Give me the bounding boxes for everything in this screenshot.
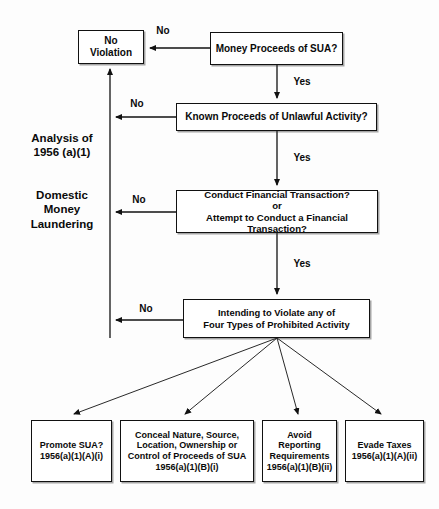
node-known-proceeds-of-unlawful-activity[interactable]: Known Proceeds of Unlawful Activity? <box>176 103 377 131</box>
edge-label-yes-2: Yes <box>286 152 318 164</box>
node-intending-to-violate[interactable]: Intending to Violate any of Four Types o… <box>183 299 370 338</box>
node-outcome-evade-taxes-label: Evade Taxes 1956(a)(1)(A)(ii) <box>349 440 421 461</box>
edge-fan-conceal <box>185 338 277 414</box>
edge-label-no-1: No <box>148 25 178 37</box>
node-conduct-financial-transaction[interactable]: Conduct Financial Transaction? or Attemp… <box>176 190 378 233</box>
edge-label-no-2: No <box>122 98 152 110</box>
node-conduct-txn-label: Conduct Financial Transaction? or Attemp… <box>177 189 377 234</box>
edge-label-no-4: No <box>131 303 161 315</box>
node-money-proceeds-label: Money Proceeds of SUA? <box>213 43 341 55</box>
node-outcome-conceal-nature[interactable]: Conceal Nature, Source, Location, Owners… <box>120 420 254 482</box>
edge-label-no-3: No <box>124 194 154 206</box>
node-outcome-promote-sua[interactable]: Promote SUA? 1956(a)(1)(A)(i) <box>31 420 112 482</box>
node-outcome-conceal-nature-label: Conceal Nature, Source, Location, Owners… <box>125 430 250 472</box>
edge-label-yes-3: Yes <box>286 258 318 270</box>
node-known-proceeds-label: Known Proceeds of Unlawful Activity? <box>182 111 370 123</box>
edge-fan-promote <box>74 338 277 414</box>
side-label-domestic: Domestic Money Laundering <box>14 188 110 231</box>
node-no-violation[interactable]: No Violation <box>78 30 144 64</box>
node-outcome-promote-sua-label: Promote SUA? 1956(a)(1)(A)(i) <box>37 440 107 461</box>
node-intending-label: Intending to Violate any of Four Types o… <box>200 307 352 329</box>
node-outcome-avoid-reporting[interactable]: Avoid Reporting Requirements 1956(a)(1)(… <box>262 420 337 482</box>
flowchart-canvas: Analysis of 1956 (a)(1) Domestic Money L… <box>0 0 439 509</box>
edge-fan-avoid <box>277 338 298 414</box>
node-money-proceeds-of-sua[interactable]: Money Proceeds of SUA? <box>210 32 343 65</box>
edge-label-yes-1: Yes <box>286 76 318 88</box>
edge-fan-evade <box>277 338 381 414</box>
side-label-analysis: Analysis of 1956 (a)(1) <box>14 131 110 160</box>
node-outcome-evade-taxes[interactable]: Evade Taxes 1956(a)(1)(A)(ii) <box>345 420 424 482</box>
node-no-violation-label: No Violation <box>87 35 135 59</box>
node-outcome-avoid-reporting-label: Avoid Reporting Requirements 1956(a)(1)(… <box>264 430 336 472</box>
